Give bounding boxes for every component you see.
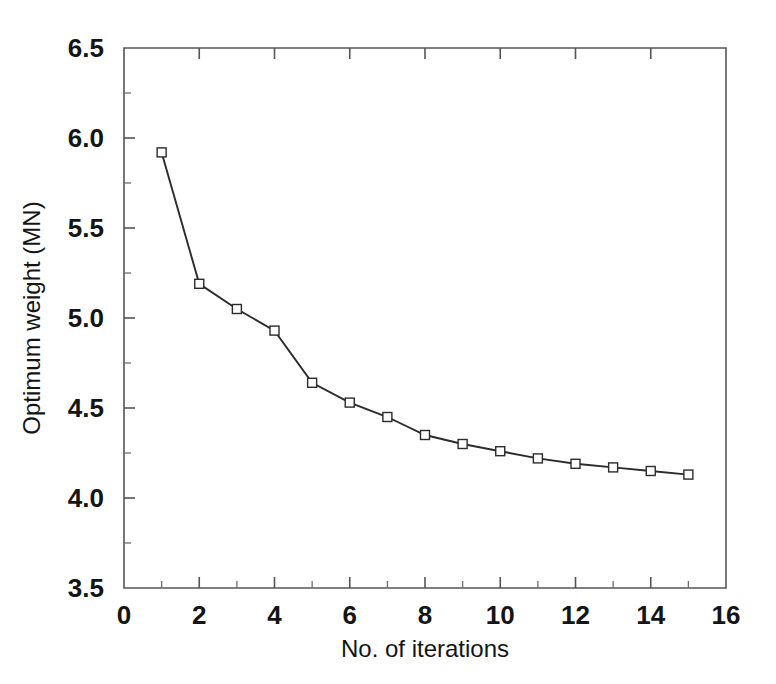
x-tick-label-3: 6 (343, 600, 357, 630)
x-tick-label-5: 10 (486, 600, 515, 630)
x-tick-label-7: 14 (636, 600, 665, 630)
y-axis-title: Optimum weight (MN) (18, 201, 45, 434)
data-point-10 (496, 447, 505, 456)
x-axis-title: No. of iterations (341, 635, 509, 662)
data-point-11 (533, 454, 542, 463)
data-point-12 (571, 459, 580, 468)
data-point-6 (345, 398, 354, 407)
y-tick-label-1: 4.0 (68, 483, 104, 513)
data-point-5 (308, 378, 317, 387)
data-point-15 (684, 470, 693, 479)
x-tick-label-8: 16 (712, 600, 741, 630)
data-point-3 (232, 305, 241, 314)
y-tick-label-3: 5.0 (68, 303, 104, 333)
data-point-8 (421, 431, 430, 440)
x-tick-label-4: 8 (418, 600, 432, 630)
x-tick-label-2: 4 (267, 600, 282, 630)
x-tick-label-6: 12 (561, 600, 590, 630)
data-point-1 (157, 148, 166, 157)
chart-figure: 3.54.04.55.05.56.06.5 0246810121416 No. … (0, 0, 776, 684)
y-tick-label-0: 3.5 (68, 573, 104, 603)
x-tick-label-0: 0 (117, 600, 131, 630)
data-point-7 (383, 413, 392, 422)
y-tick-label-5: 6.0 (68, 123, 104, 153)
chart-canvas: 3.54.04.55.05.56.06.5 0246810121416 No. … (0, 0, 776, 684)
y-tick-label-6: 6.5 (68, 33, 104, 63)
data-point-4 (270, 326, 279, 335)
y-tick-label-4: 5.5 (68, 213, 104, 243)
data-point-13 (609, 463, 618, 472)
data-point-9 (458, 440, 467, 449)
data-point-2 (195, 279, 204, 288)
x-tick-label-1: 2 (192, 600, 206, 630)
data-point-14 (646, 467, 655, 476)
y-tick-label-2: 4.5 (68, 393, 104, 423)
